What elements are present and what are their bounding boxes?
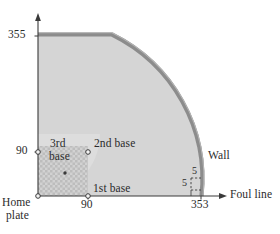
second-base-label: 2nd base xyxy=(94,138,135,150)
third-base-marker xyxy=(36,150,41,155)
pitchers-mound-marker xyxy=(63,171,66,174)
dimension-label-top: 5 xyxy=(192,166,197,176)
y-axis-arrowhead xyxy=(35,13,41,21)
x-tick-label-90: 90 xyxy=(81,199,93,211)
dimension-label-left: 5 xyxy=(182,178,187,188)
x-axis-arrowhead xyxy=(219,193,227,199)
home-plate-label-line1: Home xyxy=(2,196,31,208)
second-base-marker xyxy=(86,150,91,155)
wall-label: Wall xyxy=(208,150,230,162)
y-tick-label-90: 90 xyxy=(16,145,28,157)
third-base-label-line1: 3rd xyxy=(50,138,66,150)
first-base-label: 1st base xyxy=(93,183,131,195)
home-plate-label-line2: plate xyxy=(6,209,29,221)
x-tick-label-353: 353 xyxy=(191,199,209,211)
third-base-label-line2: base xyxy=(49,151,70,163)
home-plate-marker xyxy=(36,194,41,199)
foul-line-label: Foul line xyxy=(230,189,272,201)
y-tick-label-355: 355 xyxy=(8,29,26,41)
